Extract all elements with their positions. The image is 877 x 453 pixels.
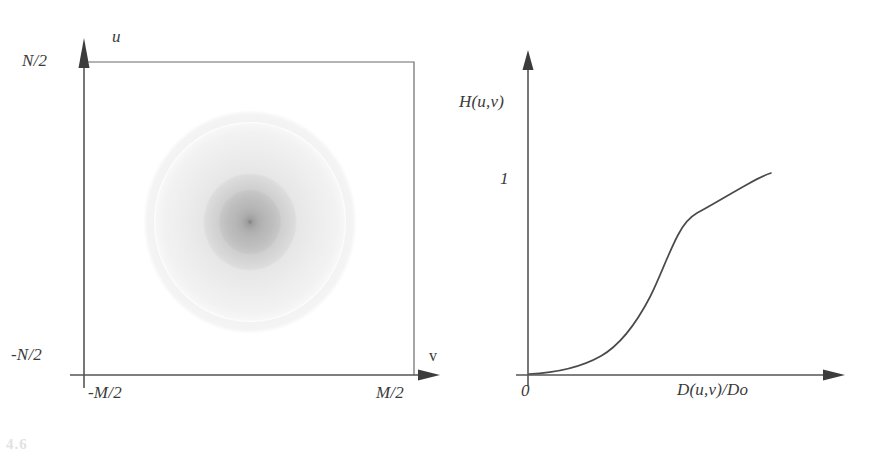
d-axis-arrow-icon [823, 370, 845, 381]
left-panel-group [70, 38, 440, 388]
u-axis-arrow-icon [79, 38, 90, 68]
axis-tick-label-zero: 0 [521, 382, 530, 399]
axis-tick-label-neg-n-over-2: -N/2 [11, 346, 42, 363]
right-panel-group [516, 50, 845, 386]
figure-caption-fragment: 4.6 [6, 436, 28, 453]
axis-label-v: v [429, 348, 437, 364]
figure-root: N/2 u -N/2 -M/2 M/2 v H(u,v) 1 0 D(u,v)/… [0, 0, 877, 453]
v-axis-arrow-icon [418, 370, 440, 381]
axis-label-d-over-do: D(u,v)/Do [677, 381, 748, 398]
axis-tick-label-m-over-2: M/2 [376, 384, 404, 401]
axis-tick-label-neg-m-over-2: -M/2 [88, 384, 122, 401]
transfer-function-curve [529, 173, 771, 374]
axis-label-h-of-u-v: H(u,v) [459, 93, 504, 110]
axis-label-u: u [112, 28, 121, 45]
axis-tick-label-one: 1 [500, 170, 509, 187]
h-axis-arrow-icon [523, 50, 534, 70]
axis-tick-label-n-over-2: N/2 [22, 52, 47, 69]
filter-image-blob [143, 110, 357, 334]
